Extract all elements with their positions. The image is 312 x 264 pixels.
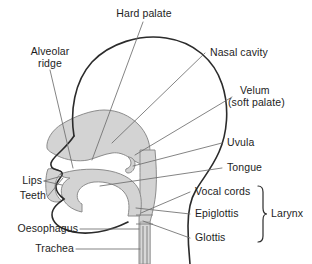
label-lips: Lips <box>0 175 42 187</box>
larynx-brace <box>258 186 267 242</box>
label-hard-palate: Hard palate <box>104 8 184 20</box>
label-nasal-cavity: Nasal cavity <box>210 47 268 59</box>
label-epiglottis: Epiglottis <box>195 208 239 220</box>
nasal-cavity-shape <box>47 110 150 166</box>
label-velum-line2: (soft palate) <box>228 97 285 109</box>
label-vocal-cords: Vocal cords <box>195 186 250 198</box>
uvula-shape <box>126 157 135 173</box>
tongue-shape <box>60 169 141 216</box>
label-uvula: Uvula <box>227 137 254 149</box>
label-larynx: Larynx <box>271 208 303 220</box>
leader-nasal-cavity <box>112 53 205 143</box>
label-glottis: Glottis <box>195 232 225 244</box>
label-trachea: Trachea <box>0 243 74 255</box>
label-alveolar-ridge-line2: ridge <box>14 58 86 70</box>
vocal-tract-diagram: Hard palate Alveolar ridge Nasal cavity … <box>0 0 312 264</box>
label-oesophagus: Oesophagus <box>0 223 78 235</box>
larynx-brace-path <box>258 186 267 242</box>
label-velum-line1: Velum <box>240 85 270 97</box>
lips-shape <box>46 169 62 202</box>
label-alveolar-ridge-line1: Alveolar <box>14 46 86 58</box>
label-tongue: Tongue <box>227 162 262 174</box>
trachea-shape <box>140 222 150 264</box>
label-teeth: Teeth <box>0 190 46 202</box>
leader-velum <box>135 97 232 155</box>
vocal-tract-shading <box>46 110 157 264</box>
